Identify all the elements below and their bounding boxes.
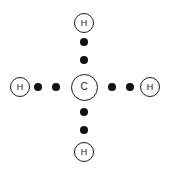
electron-dot-bottom-inner — [80, 108, 88, 116]
atom-label-hydrogen-bottom: H — [81, 148, 88, 157]
electron-dot-top-outer — [80, 38, 88, 46]
atom-label-carbon: C — [80, 82, 87, 92]
atom-hydrogen-top: H — [74, 13, 94, 33]
atom-label-hydrogen-left: H — [17, 83, 24, 92]
electron-dot-bottom-outer — [80, 126, 88, 134]
atom-hydrogen-right: H — [140, 77, 160, 97]
electron-dot-left-outer — [34, 83, 42, 91]
lewis-structure-diagram: H H H H C — [0, 0, 172, 175]
electron-dot-right-outer — [126, 83, 134, 91]
atom-label-hydrogen-right: H — [147, 83, 154, 92]
atom-label-hydrogen-top: H — [81, 19, 88, 28]
atom-hydrogen-left: H — [10, 77, 30, 97]
electron-dot-left-inner — [52, 83, 60, 91]
atom-hydrogen-bottom: H — [74, 142, 94, 162]
electron-dot-right-inner — [108, 83, 116, 91]
atom-carbon-center: C — [71, 74, 98, 101]
electron-dot-top-inner — [80, 56, 88, 64]
